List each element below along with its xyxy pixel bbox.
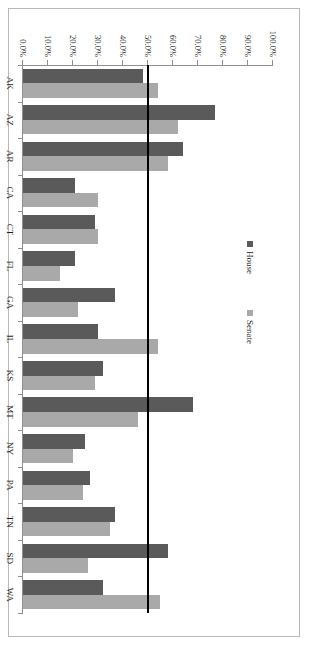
bar-house-ny: [23, 434, 86, 449]
bar-senate-ak: [23, 83, 158, 98]
category-tick: [18, 357, 23, 358]
value-tick-label: 90.0%: [243, 35, 253, 57]
value-tick-label: 10.0%: [43, 35, 53, 57]
category-tick: [18, 248, 23, 249]
category-label-fl: FL: [5, 261, 15, 272]
bar-senate-ca: [23, 193, 98, 208]
value-tick-label: 0.0%: [18, 39, 28, 57]
bar-house-ar: [23, 142, 183, 157]
value-tick: [172, 60, 173, 65]
bar-house-mt: [23, 397, 193, 412]
value-tick: [197, 60, 198, 65]
category-label-ks: KS: [5, 370, 15, 382]
category-tick: [18, 467, 23, 468]
category-tick: [18, 284, 23, 285]
bar-senate-il: [23, 339, 158, 354]
category-tick: [18, 430, 23, 431]
bar-house-pa: [23, 471, 91, 486]
bar-house-az: [23, 105, 216, 120]
value-tick: [272, 60, 273, 65]
category-label-az: AZ: [5, 114, 15, 126]
value-tick: [97, 60, 98, 65]
reference-line-50pct: [147, 65, 149, 613]
bar-senate-pa: [23, 485, 83, 500]
bar-house-ks: [23, 361, 103, 376]
value-tick-label: 80.0%: [218, 35, 228, 57]
bar-house-sd: [23, 544, 168, 559]
category-label-ct: CT: [5, 224, 15, 236]
bar-house-wa: [23, 580, 103, 595]
category-tick: [18, 321, 23, 322]
bar-senate-mt: [23, 412, 138, 427]
value-tick-label: 30.0%: [93, 35, 103, 57]
bar-senate-fl: [23, 266, 61, 281]
bar-senate-sd: [23, 558, 88, 573]
category-tick: [18, 503, 23, 504]
category-label-il: IL: [5, 335, 15, 344]
chart-stage: House Senate 100.0%90.0%80.0%70.0%60.0%5…: [0, 0, 309, 647]
category-tick: [18, 102, 23, 103]
bar-house-fl: [23, 251, 76, 266]
category-label-wa: WA: [5, 588, 15, 602]
bar-senate-ct: [23, 229, 98, 244]
value-tick: [122, 60, 123, 65]
category-label-sd: SD: [5, 552, 15, 564]
category-tick: [18, 394, 23, 395]
value-tick-label: 50.0%: [143, 35, 153, 57]
chart-screenshot: House Senate 100.0%90.0%80.0%70.0%60.0%5…: [0, 0, 309, 647]
bar-senate-az: [23, 120, 178, 135]
category-label-ar: AR: [5, 150, 15, 163]
category-tick: [18, 175, 23, 176]
value-tick-label: 20.0%: [68, 35, 78, 57]
category-label-ny: NY: [5, 442, 15, 455]
value-tick-label: 60.0%: [168, 35, 178, 57]
bar-senate-ga: [23, 302, 78, 317]
category-label-pa: PA: [5, 480, 15, 491]
category-tick: [18, 138, 23, 139]
category-label-tn: TN: [5, 516, 15, 528]
value-tick-label: 100.0%: [268, 31, 278, 57]
category-label-ak: AK: [5, 77, 15, 90]
category-tick: [18, 540, 23, 541]
bar-senate-ks: [23, 376, 96, 391]
chart-plot-frame: House Senate 100.0%90.0%80.0%70.0%60.0%5…: [8, 8, 300, 637]
category-label-ca: CA: [5, 187, 15, 200]
bar-senate-tn: [23, 522, 111, 537]
bar-house-ak: [23, 69, 143, 84]
value-tick: [247, 60, 248, 65]
value-tick: [72, 60, 73, 65]
bar-house-tn: [23, 507, 116, 522]
category-tick: [18, 613, 23, 614]
chart-plot-area: 100.0%90.0%80.0%70.0%60.0%50.0%40.0%30.0…: [23, 65, 273, 613]
value-tick-label: 40.0%: [118, 35, 128, 57]
bar-house-ct: [23, 215, 96, 230]
category-tick: [18, 211, 23, 212]
bar-senate-ny: [23, 449, 73, 464]
bar-senate-ar: [23, 156, 168, 171]
bar-house-ca: [23, 178, 76, 193]
category-label-mt: MT: [5, 405, 15, 419]
bar-house-ga: [23, 288, 116, 303]
value-tick-label: 70.0%: [193, 35, 203, 57]
category-label-ga: GA: [5, 296, 15, 309]
value-tick: [222, 60, 223, 65]
bar-senate-wa: [23, 595, 161, 610]
category-tick: [18, 576, 23, 577]
bar-house-il: [23, 324, 98, 339]
category-tick: [18, 65, 23, 66]
value-tick: [47, 60, 48, 65]
